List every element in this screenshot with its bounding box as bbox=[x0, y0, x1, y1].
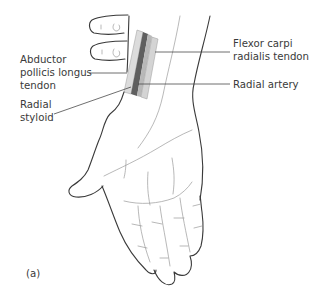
label-abductor-line3: tendon bbox=[20, 80, 56, 91]
finger-joint-2a bbox=[152, 222, 162, 224]
wrist-anatomy-diagram: Abductor pollicis longus tendon Radial s… bbox=[0, 0, 317, 299]
examiner-finger-lower bbox=[91, 41, 127, 60]
hand-outline-index-side bbox=[102, 186, 156, 274]
hand-outline-thumb bbox=[69, 92, 124, 197]
label-radial-artery: Radial artery bbox=[233, 79, 299, 90]
label-flexor-carpi-radialis: Flexor carpi radialis tendon bbox=[233, 38, 309, 62]
label-flexor-line1: Flexor carpi bbox=[233, 38, 292, 49]
label-abductor-line1: Abductor bbox=[20, 54, 67, 65]
forearm-edge-right bbox=[193, 16, 210, 200]
label-radial-styloid-line2: styloid bbox=[20, 112, 54, 123]
distal-palmar-crease bbox=[124, 182, 192, 203]
fingernail-lower bbox=[113, 49, 120, 57]
fingertips-outline bbox=[154, 196, 203, 285]
label-radial-artery-line1: Radial artery bbox=[233, 79, 299, 90]
fingernail-upper bbox=[113, 24, 120, 31]
finger-joint-1b bbox=[138, 246, 147, 248]
finger-joint-4a bbox=[193, 204, 201, 206]
tendon-bands bbox=[124, 30, 158, 99]
forearm-edge-left-upper bbox=[127, 16, 129, 72]
finger-joint-4b bbox=[194, 226, 202, 228]
crease-short bbox=[124, 160, 126, 178]
label-radial-styloid-line1: Radial bbox=[20, 99, 51, 110]
crease-mid bbox=[148, 172, 150, 205]
label-flexor-line2: radialis tendon bbox=[233, 51, 309, 62]
finger-gap-1 bbox=[138, 206, 150, 262]
examiner-fingers bbox=[90, 15, 128, 60]
label-abductor-line2: pollicis longus bbox=[20, 67, 92, 78]
thenar-crease bbox=[104, 130, 192, 176]
panel-label: (a) bbox=[26, 268, 40, 279]
label-radial-styloid: Radial styloid bbox=[20, 99, 54, 123]
label-abductor-pollicis-longus: Abductor pollicis longus tendon bbox=[20, 54, 92, 91]
leader-radial-styloid bbox=[54, 87, 131, 114]
finger-gap-2 bbox=[160, 206, 170, 266]
finger-gap-3 bbox=[180, 198, 190, 252]
crease-right bbox=[172, 158, 174, 194]
palm-creases bbox=[104, 130, 202, 266]
examiner-finger-upper bbox=[90, 15, 128, 34]
